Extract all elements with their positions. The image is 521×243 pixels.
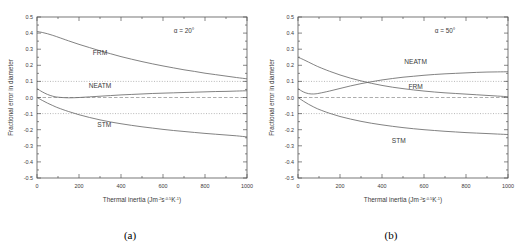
x-tick-label: 800 xyxy=(201,183,210,189)
y-axis-label: Fractional error in diameter xyxy=(7,58,14,136)
y-tick-label: -0.2 xyxy=(24,127,33,133)
y-tick-label: -0.3 xyxy=(24,143,33,149)
curve-stm xyxy=(298,98,508,135)
y-tick-label: -0.3 xyxy=(285,143,294,149)
x-tick-label: 200 xyxy=(336,183,345,189)
x-tick-label: 200 xyxy=(75,183,84,189)
y-tick-label: 0.1 xyxy=(26,78,34,84)
curve-label-stm: STM xyxy=(392,137,406,144)
y-tick-label: -0.1 xyxy=(24,111,33,117)
curve-stm xyxy=(37,98,247,137)
y-tick-label: 0.3 xyxy=(26,46,34,52)
x-tick-label: 600 xyxy=(420,183,429,189)
curve-label-stm: STM xyxy=(97,121,111,128)
y-tick-label: 0.0 xyxy=(287,95,295,101)
figure-container: 020040060080010000.50.40.30.20.10.0-0.1-… xyxy=(0,0,521,243)
panel-caption: (b) xyxy=(261,229,521,241)
chart-panel-b: 020040060080010000.50.40.30.20.10.0-0.1-… xyxy=(261,0,521,243)
chart-panel-a: 020040060080010000.50.40.30.20.10.0-0.1-… xyxy=(0,0,260,243)
y-tick-label: 0.0 xyxy=(26,95,34,101)
x-tick-label: 800 xyxy=(462,183,471,189)
x-axis-label: Thermal inertia (Jm-2s-0.5K-1) xyxy=(364,196,442,204)
x-tick-label: 600 xyxy=(159,183,168,189)
y-tick-label: 0.4 xyxy=(287,30,295,36)
x-tick-label: 400 xyxy=(378,183,387,189)
x-tick-label: 400 xyxy=(117,183,126,189)
y-tick-label: 0.2 xyxy=(26,62,34,68)
y-tick-label: -0.4 xyxy=(24,159,33,165)
curve-neatm xyxy=(37,89,247,98)
x-axis-label: Thermal inertia (Jm-2s-0.5K-1) xyxy=(103,196,181,204)
curve-label-neatm: NEATM xyxy=(89,82,112,89)
y-tick-label: 0.2 xyxy=(287,62,295,68)
y-tick-label: 0.1 xyxy=(287,78,295,84)
curve-label-frm: FRM xyxy=(408,83,422,90)
curve-label-frm: FRM xyxy=(93,49,107,56)
curve-frm xyxy=(37,31,247,78)
x-tick-label: 1000 xyxy=(241,183,253,189)
y-tick-label: -0.1 xyxy=(285,111,294,117)
y-axis-label: Fractional error in diameter xyxy=(268,58,275,136)
y-tick-label: -0.4 xyxy=(285,159,294,165)
y-tick-label: 0.5 xyxy=(287,14,295,20)
y-tick-label: 0.3 xyxy=(287,46,295,52)
x-tick-label: 0 xyxy=(36,183,39,189)
y-tick-label: 0.5 xyxy=(26,14,34,20)
y-tick-label: 0.4 xyxy=(26,30,34,36)
y-tick-label: -0.5 xyxy=(24,175,33,181)
x-tick-label: 0 xyxy=(297,183,300,189)
y-tick-label: -0.5 xyxy=(285,175,294,181)
plot-area: 020040060080010000.50.40.30.20.10.0-0.1-… xyxy=(0,0,260,218)
plot-area: 020040060080010000.50.40.30.20.10.0-0.1-… xyxy=(261,0,521,218)
phase-angle-annotation: α = 20° xyxy=(174,27,195,34)
phase-angle-annotation: α = 50° xyxy=(435,27,456,34)
y-tick-label: -0.2 xyxy=(285,127,294,133)
curve-neatm xyxy=(298,72,508,94)
panel-caption: (a) xyxy=(0,229,260,241)
x-tick-label: 1000 xyxy=(502,183,514,189)
curve-label-neatm: NEATM xyxy=(404,58,427,65)
